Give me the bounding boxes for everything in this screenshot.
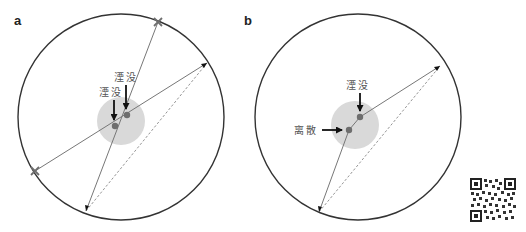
panel-b: b 湮没 离散 — [244, 13, 461, 220]
event-dot-a-lower — [112, 123, 118, 129]
event-dot-a-upper — [124, 112, 130, 118]
event-dot-b-lower — [346, 127, 352, 133]
panel-b-label: b — [244, 13, 252, 28]
panel-a: a 湮没 湮没 — [14, 13, 224, 220]
endpoint-arrow-b-right — [434, 66, 440, 71]
source-disc-b — [331, 101, 379, 149]
annihilation-label-a1: 湮没 — [99, 87, 123, 98]
scatter-label-b: 离散 — [294, 124, 318, 136]
annihilation-label-a2: 湮没 — [114, 72, 138, 83]
source-disc-a — [97, 97, 145, 145]
diagram-canvas: a 湮没 湮没 b — [0, 0, 526, 232]
endpoint-arrow-a-right — [201, 63, 207, 68]
qr-code — [470, 178, 516, 222]
panel-a-label: a — [14, 13, 22, 28]
annihilation-label-b: 湮没 — [346, 80, 370, 91]
event-dot-b-upper — [357, 114, 363, 120]
